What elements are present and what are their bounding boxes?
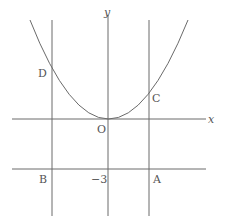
point-d-label: D bbox=[38, 67, 47, 80]
point-c-label: C bbox=[152, 92, 160, 105]
minus-three-label: −3 bbox=[91, 173, 107, 186]
parabola-curve bbox=[30, 20, 188, 119]
diagram-canvas: y x O D C B A −3 bbox=[0, 0, 225, 216]
y-axis-label: y bbox=[103, 6, 111, 19]
x-axis-label: x bbox=[208, 113, 215, 126]
graph-svg: y x O D C B A −3 bbox=[0, 0, 225, 216]
point-a-label: A bbox=[152, 173, 162, 186]
origin-label: O bbox=[97, 123, 106, 136]
point-b-label: B bbox=[39, 173, 47, 186]
